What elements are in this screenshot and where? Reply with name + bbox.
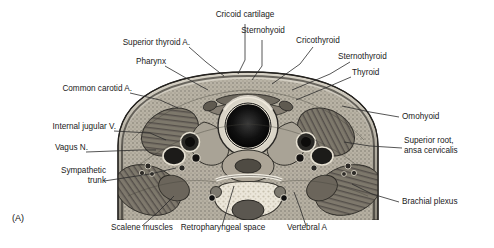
label-internal-jugular-vein: Internal jugular V. [18,122,116,132]
label-sternothyroid: Sternothyroid [338,52,414,62]
figure-panel: Cricoid cartilage Sternohyoid Cricothyro… [0,0,494,248]
label-cricoid-cartilage: Cricoid cartilage [190,10,300,20]
label-superior-thyroid-artery: Superior thyroid A. [96,38,190,48]
label-common-carotid-artery: Common carotid A. [38,84,132,94]
label-retropharyngeal-space: Retropharyngeal space [162,223,284,233]
label-superior-root-ansa-cervicalis: Superior root, ansa cervicalis [404,136,490,156]
panel-tag: (A) [12,213,24,223]
label-vagus-nerve: Vagus N. [30,143,88,153]
label-thyroid: Thyroid [352,68,412,78]
label-omohyoid: Omohyoid [402,112,478,122]
label-vertebral-artery: Vertebral A [272,223,342,233]
label-brachial-plexus: Brachial plexus [402,197,492,207]
label-cricothyroid: Cricothyroid [296,36,366,46]
label-sympathetic-trunk: Sympathetic trunk [26,166,106,186]
label-pharynx: Pharynx [110,57,166,67]
neck-cross-section-illustration [112,70,384,220]
anatomy-svg [112,70,384,220]
label-sternohyoid: Sternohyoid [228,26,298,36]
